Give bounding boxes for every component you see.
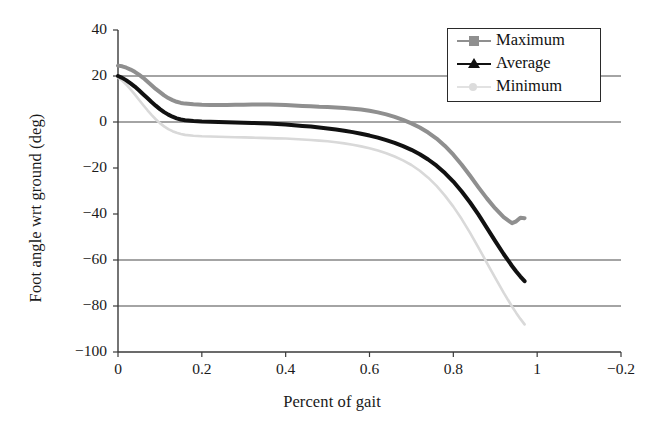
series-line-minimum bbox=[118, 77, 525, 324]
chart-figure: Foot angle wrt ground (deg) Percent of g… bbox=[0, 0, 664, 434]
y-tick-label: −40 bbox=[47, 204, 107, 222]
y-tick-label: 0 bbox=[47, 112, 107, 130]
legend-label-average: Average bbox=[493, 55, 551, 72]
legend-item-maximum: Maximum bbox=[448, 29, 600, 52]
legend-swatch-minimum bbox=[455, 78, 493, 96]
x-tick-label: −0.2 bbox=[586, 360, 656, 378]
legend-swatch-average bbox=[455, 55, 493, 73]
y-tick-label: 40 bbox=[47, 20, 107, 38]
legend-label-maximum: Maximum bbox=[493, 32, 565, 49]
legend-item-average: Average bbox=[448, 52, 600, 75]
x-tick-label: 0.2 bbox=[167, 360, 237, 378]
y-tick-label: 20 bbox=[47, 66, 107, 84]
data-series-group bbox=[118, 66, 525, 325]
legend-label-minimum: Minimum bbox=[493, 78, 562, 95]
y-tick-label: −20 bbox=[47, 158, 107, 176]
x-tick-label: 0.4 bbox=[251, 360, 321, 378]
y-tick-label: −60 bbox=[47, 250, 107, 268]
x-tick-marks bbox=[118, 352, 621, 357]
x-tick-label: 0.6 bbox=[335, 360, 405, 378]
legend-item-minimum: Minimum bbox=[448, 75, 600, 98]
triangle-marker-icon bbox=[468, 58, 480, 68]
chart-legend: Maximum Average Minimum bbox=[447, 28, 601, 102]
square-marker-icon bbox=[469, 36, 479, 46]
dot-marker-icon bbox=[469, 83, 477, 91]
x-axis-title: Percent of gait bbox=[0, 392, 664, 412]
x-tick-label: 0.8 bbox=[418, 360, 488, 378]
legend-swatch-maximum bbox=[455, 32, 493, 50]
x-tick-label: 1 bbox=[502, 360, 572, 378]
y-axis-title: Foot angle wrt ground (deg) bbox=[26, 88, 46, 328]
y-tick-label: −100 bbox=[47, 342, 107, 360]
y-tick-label: −80 bbox=[47, 296, 107, 314]
x-tick-label: 0 bbox=[83, 360, 153, 378]
